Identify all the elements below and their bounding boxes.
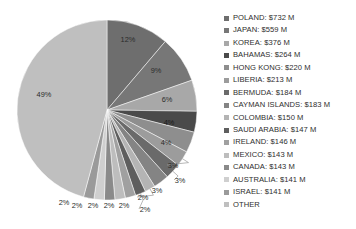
- pie-slice-percent-label: 9%: [151, 66, 162, 75]
- legend-item-label: IRELAND: $146 M: [233, 136, 296, 148]
- legend-swatch-icon: [224, 190, 229, 195]
- pie-slice-percent-label: 2%: [59, 198, 70, 207]
- pie-slice-percent-label: 3%: [175, 176, 186, 185]
- pie-slice-percent-label: 2%: [104, 201, 115, 210]
- legend-swatch-icon: [224, 41, 229, 46]
- pie-slice-percent-label: 3%: [168, 161, 179, 170]
- legend-item-label: LIBERIA: $213 M: [233, 74, 292, 86]
- legend-item-label: BERMUDA: $184 M: [233, 87, 301, 99]
- legend-swatch-icon: [224, 128, 229, 133]
- legend-swatch-icon: [224, 165, 229, 170]
- legend-item[interactable]: AUSTRALIA: $141 M: [224, 174, 356, 186]
- legend-item-label: SAUDI ARABIA: $147 M: [233, 124, 316, 136]
- legend-swatch-icon: [224, 177, 229, 182]
- legend-swatch-icon: [224, 90, 229, 95]
- pie-slice-percent-label: 49%: [37, 90, 52, 99]
- legend-swatch-icon: [224, 115, 229, 120]
- legend-item[interactable]: HONG KONG: $220 M: [224, 62, 356, 74]
- legend-item-label: ISRAEL: $141 M: [233, 186, 290, 198]
- legend-swatch-icon: [224, 78, 229, 83]
- legend-item[interactable]: CAYMAN ISLANDS: $183 M: [224, 99, 356, 111]
- pie-slice-percent-label: 6%: [162, 95, 173, 104]
- legend-swatch-icon: [224, 103, 229, 108]
- legend-swatch-icon: [224, 202, 229, 207]
- pie-svg: 12%9%6%4%4%3%3%3%2%2%2%2%2%2%2%49%: [0, 0, 200, 229]
- legend-item-label: KOREA: $376 M: [233, 37, 290, 49]
- legend-item-label: POLAND: $732 M: [233, 12, 294, 24]
- pie-chart: 12%9%6%4%4%3%3%3%2%2%2%2%2%2%2%49% POLAN…: [0, 0, 356, 229]
- legend-item[interactable]: KOREA: $376 M: [224, 37, 356, 49]
- legend-item[interactable]: LIBERIA: $213 M: [224, 74, 356, 86]
- legend-swatch-icon: [224, 65, 229, 70]
- pie-slice-percent-label: 2%: [138, 193, 149, 202]
- legend-item[interactable]: OTHER: [224, 199, 356, 211]
- legend-item[interactable]: BAHAMAS: $264 M: [224, 49, 356, 61]
- legend-item[interactable]: BERMUDA: $184 M: [224, 87, 356, 99]
- pie-slice-percent-label: 3%: [152, 186, 163, 195]
- legend-item-label: JAPAN: $559 M: [233, 24, 287, 36]
- legend-item-label: BAHAMAS: $264 M: [233, 49, 300, 61]
- legend-item[interactable]: COLOMBIA: $150 M: [224, 112, 356, 124]
- pie-plot-area: 12%9%6%4%4%3%3%3%2%2%2%2%2%2%2%49%: [0, 0, 200, 229]
- legend-item[interactable]: IRELAND: $146 M: [224, 136, 356, 148]
- legend-item-label: COLOMBIA: $150 M: [233, 112, 303, 124]
- legend-item[interactable]: ISRAEL: $141 M: [224, 186, 356, 198]
- legend-item[interactable]: SAUDI ARABIA: $147 M: [224, 124, 356, 136]
- legend-item[interactable]: POLAND: $732 M: [224, 12, 356, 24]
- legend-swatch-icon: [224, 53, 229, 58]
- pie-slices: [17, 20, 197, 200]
- pie-slice-percent-label: 2%: [88, 201, 99, 210]
- pie-slice-percent-label: 4%: [161, 138, 172, 147]
- legend-item-label: OTHER: [233, 199, 260, 211]
- pie-slice-percent-label: 2%: [140, 205, 151, 214]
- legend-item-label: MEXICO: $143 M: [233, 149, 293, 161]
- pie-slice-percent-label: 12%: [121, 35, 136, 44]
- legend-swatch-icon: [224, 153, 229, 158]
- legend-swatch-icon: [224, 16, 229, 21]
- pie-slice-percent-label: 4%: [164, 118, 175, 127]
- pie-slice-percent-label: 2%: [119, 201, 130, 210]
- legend-item-label: AUSTRALIA: $141 M: [233, 174, 306, 186]
- legend-item-label: CAYMAN ISLANDS: $183 M: [233, 99, 330, 111]
- legend-item-label: HONG KONG: $220 M: [233, 62, 311, 74]
- chart-legend: POLAND: $732 MJAPAN: $559 MKOREA: $376 M…: [224, 12, 356, 211]
- legend-swatch-icon: [224, 140, 229, 145]
- pie-slice-percent-label: 2%: [72, 201, 83, 210]
- legend-item-label: CANADA: $143 M: [233, 161, 295, 173]
- legend-item[interactable]: CANADA: $143 M: [224, 161, 356, 173]
- legend-swatch-icon: [224, 28, 229, 33]
- legend-item[interactable]: JAPAN: $559 M: [224, 24, 356, 36]
- legend-item[interactable]: MEXICO: $143 M: [224, 149, 356, 161]
